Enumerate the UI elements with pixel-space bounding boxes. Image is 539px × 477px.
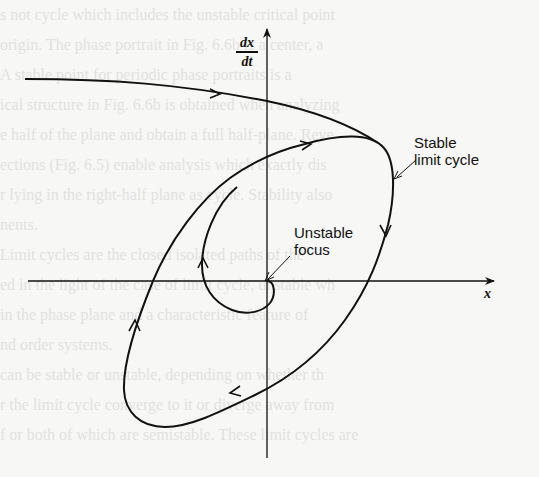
outer-trajectory: [25, 79, 378, 143]
y-axis-label-numerator: dx: [240, 35, 254, 50]
label-line: Stable: [414, 134, 479, 151]
y-axis-label: dx dt: [236, 35, 258, 69]
direction-arrow-icon: [230, 386, 241, 396]
y-axis-label-denominator: dt: [242, 54, 253, 69]
inner-spiral: [198, 187, 274, 313]
phase-plane-figure: s not cycle which includes the unstable …: [0, 0, 539, 477]
unstable-focus-label: Unstable focus: [294, 224, 353, 258]
phase-plane-svg: [0, 0, 539, 477]
direction-arrow-icon: [210, 89, 220, 98]
stable-limit-cycle: [124, 136, 393, 427]
x-axis-label: x: [484, 286, 491, 302]
label-line: limit cycle: [414, 151, 479, 168]
fraction-bar: [236, 51, 258, 53]
label-line: Unstable: [294, 224, 353, 241]
stable-limit-cycle-label: Stable limit cycle: [414, 134, 479, 168]
label-line: focus: [294, 241, 353, 258]
